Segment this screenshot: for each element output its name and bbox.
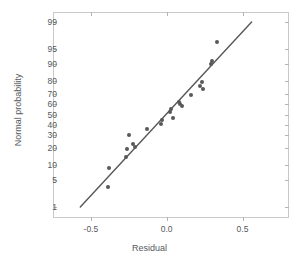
x-axis-title: Residual (0, 243, 299, 253)
normal-probability-plot: 999590807060504030201051 -0.50.00.5 Resi… (0, 0, 299, 265)
y-axis-title: Normal probability (13, 40, 23, 180)
reference-line (0, 0, 299, 265)
